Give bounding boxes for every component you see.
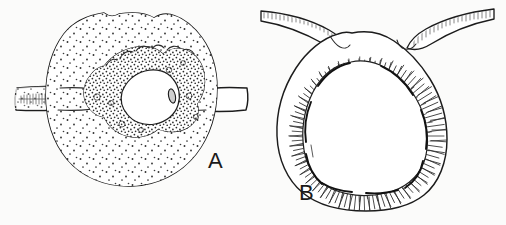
panel-a-label: A — [208, 148, 223, 173]
figure-illustration: A — [0, 0, 506, 225]
figure-container: A — [0, 0, 506, 225]
panel-b-label: B — [299, 180, 314, 205]
